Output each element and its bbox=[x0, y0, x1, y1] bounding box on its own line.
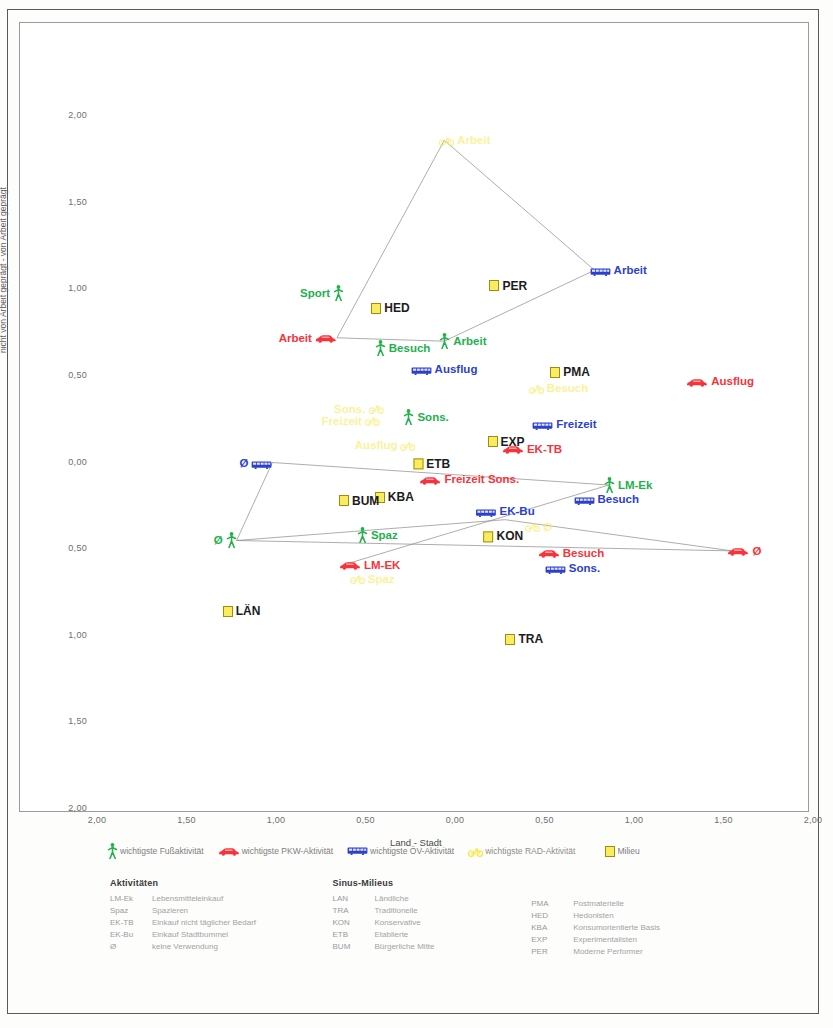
data-point-label: Ø bbox=[752, 545, 761, 557]
car-icon bbox=[339, 560, 361, 569]
abbrev-value: Etablierte bbox=[375, 931, 409, 939]
y-tick-label: 1,50 bbox=[53, 716, 87, 726]
bus-icon bbox=[545, 564, 566, 572]
data-point-fuss[interactable]: Arbeit bbox=[439, 333, 486, 349]
data-point-label: Ausflug bbox=[711, 375, 754, 387]
milieu-abbrev-row: KONKonservative bbox=[333, 919, 514, 927]
data-point-ov[interactable]: EK-Bu bbox=[476, 505, 535, 517]
legend-item-bus[interactable]: wichtigste ÖV-Aktivität bbox=[347, 846, 454, 856]
abbrev-key: PMA bbox=[531, 900, 573, 908]
yellow-square-icon bbox=[483, 531, 493, 542]
data-point-milieu[interactable]: BUM bbox=[339, 494, 379, 508]
yellow-square-icon bbox=[223, 606, 233, 617]
yellow-square-icon bbox=[605, 846, 615, 857]
data-point-label: Freizeit Sons. bbox=[444, 473, 519, 485]
abbrev-value: Einkauf Stadtbummel bbox=[152, 931, 228, 939]
data-point-fuss[interactable]: Sons. bbox=[403, 409, 448, 425]
data-point-label: Ø bbox=[543, 521, 552, 533]
data-point-milieu[interactable]: KBA bbox=[375, 490, 414, 504]
bicycle-icon bbox=[350, 573, 365, 584]
milieu-abbrev-row: TRATraditionelle bbox=[333, 907, 514, 915]
abbrev-value: Einkauf nicht täglicher Bedarf bbox=[152, 919, 256, 927]
y-axis-title: nicht von Arbeit geprägt - von Arbeit ge… bbox=[0, 187, 8, 353]
bus-icon bbox=[574, 495, 595, 503]
y-tick-label: 1,00 bbox=[53, 283, 87, 293]
legend-item-yellow-square[interactable]: Milieu bbox=[605, 846, 639, 857]
bicycle-icon bbox=[401, 440, 416, 451]
abbrev-value: Konsumorientierte Basis bbox=[573, 924, 660, 932]
abbrev-value: Experimentalisten bbox=[573, 936, 637, 944]
data-point-fuss[interactable]: Besuch bbox=[375, 340, 431, 356]
activity-abbrev-row: EK-BuEinkauf Stadtbummel bbox=[110, 931, 315, 939]
abbrev-key: KBA bbox=[531, 924, 573, 932]
bicycle-icon bbox=[365, 415, 380, 426]
abbrev-value: Hedonisten bbox=[573, 912, 613, 920]
data-point-milieu[interactable]: PMA bbox=[550, 365, 590, 379]
legend-item-bicycle[interactable]: wichtigste RAD-Aktivität bbox=[468, 846, 575, 857]
abbrev-value: Lebensmitteleinkauf bbox=[152, 895, 223, 903]
data-point-ov[interactable]: Ø bbox=[239, 457, 272, 469]
data-point-label: Ausflug bbox=[355, 439, 398, 451]
data-point-rad[interactable]: Ausflug bbox=[355, 439, 416, 451]
legend-item-pedestrian[interactable]: wichtigste Fußaktivität bbox=[107, 843, 204, 859]
data-point-label: BUM bbox=[352, 494, 379, 508]
car-icon bbox=[686, 377, 708, 386]
data-point-rad[interactable]: Arbeit bbox=[439, 134, 490, 146]
abbrev-value: Konservative bbox=[375, 919, 421, 927]
data-point-fuss[interactable]: Spaz bbox=[357, 527, 398, 543]
car-icon bbox=[727, 546, 749, 555]
data-point-label: HED bbox=[384, 301, 409, 315]
data-point-fuss[interactable]: LM-Ek bbox=[604, 477, 653, 493]
data-point-milieu[interactable]: HED bbox=[371, 301, 409, 315]
data-point-milieu[interactable]: KON bbox=[483, 530, 523, 544]
abbrev-key: PER bbox=[531, 948, 573, 956]
data-point-rad[interactable]: Besuch bbox=[529, 382, 589, 394]
legend-item-car[interactable]: wichtigste PKW-Aktivität bbox=[218, 846, 333, 856]
bicycle-icon bbox=[468, 846, 483, 857]
abbrev-key: BUM bbox=[333, 943, 375, 951]
pedestrian-icon bbox=[226, 532, 237, 548]
plot-area: SportBesuchArbeitSons.LM-EkSpazØArbeitAu… bbox=[97, 116, 813, 809]
data-point-rad[interactable]: Spaz bbox=[350, 573, 395, 585]
data-point-rad[interactable]: Sons. bbox=[334, 403, 383, 415]
data-point-fuss[interactable]: Sport bbox=[300, 285, 344, 301]
data-point-ov[interactable]: Arbeit bbox=[590, 264, 647, 276]
abbrev-key: EK-Bu bbox=[110, 931, 152, 939]
data-point-ov[interactable]: Freizeit bbox=[532, 418, 596, 430]
data-point-rad[interactable]: Ø bbox=[525, 521, 552, 533]
activity-abbrev-row: SpazSpazieren bbox=[110, 907, 315, 915]
data-point-pkw[interactable]: Besuch bbox=[538, 547, 605, 559]
milieus-title: Sinus-Milieus bbox=[333, 878, 514, 888]
x-tick-label: 0,00 bbox=[435, 815, 475, 825]
data-point-milieu[interactable]: ETB bbox=[413, 457, 450, 471]
data-point-label: Sons. bbox=[417, 411, 448, 423]
data-point-pkw[interactable]: Freizeit Sons. bbox=[419, 473, 519, 485]
data-point-label: LÄN bbox=[236, 604, 261, 618]
milieu-abbrev-row: EXPExperimentalisten bbox=[531, 936, 712, 944]
data-point-milieu[interactable]: LÄN bbox=[223, 604, 261, 618]
milieu-abbrev-row: KBAKonsumorientierte Basis bbox=[531, 924, 712, 932]
pedestrian-icon bbox=[604, 477, 615, 493]
abbrev-value: Moderne Performer bbox=[573, 948, 642, 956]
data-point-milieu[interactable]: PER bbox=[489, 279, 527, 293]
data-point-label: EXP bbox=[501, 435, 525, 449]
data-point-pkw[interactable]: LM-EK bbox=[339, 559, 400, 571]
chart-legend: wichtigste Fußaktivitätwichtigste PKW-Ak… bbox=[19, 838, 809, 864]
data-point-milieu[interactable]: TRA bbox=[505, 632, 543, 646]
data-point-ov[interactable]: Ausflug bbox=[411, 363, 478, 375]
data-point-rad[interactable]: Freizeit bbox=[322, 415, 380, 427]
bicycle-icon bbox=[368, 403, 383, 414]
data-point-milieu[interactable]: EXP bbox=[488, 435, 525, 449]
data-point-pkw[interactable]: Ausflug bbox=[686, 375, 754, 387]
data-point-label: LM-Ek bbox=[618, 479, 653, 491]
y-tick-label: 2,00 bbox=[53, 110, 87, 120]
data-point-pkw[interactable]: Ø bbox=[727, 545, 761, 557]
data-point-label: Spaz bbox=[368, 573, 395, 585]
data-point-pkw[interactable]: Arbeit bbox=[279, 332, 337, 344]
data-point-ov[interactable]: Sons. bbox=[545, 562, 600, 574]
data-point-label: Arbeit bbox=[453, 335, 486, 347]
x-tick-label: 1,00 bbox=[614, 815, 654, 825]
milieu-abbrev-row: LANLändliche bbox=[333, 895, 514, 903]
data-point-fuss[interactable]: Ø bbox=[214, 532, 237, 548]
data-point-ov[interactable]: Besuch bbox=[574, 493, 640, 505]
